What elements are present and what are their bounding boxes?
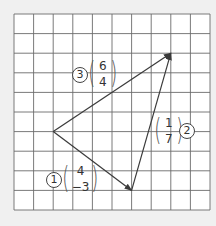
vector-2-x: 1 [165, 116, 173, 130]
vector-2-number-badge: 2 [179, 123, 195, 139]
left-paren-icon: ( [88, 58, 95, 90]
left-paren-icon: ( [62, 163, 69, 195]
left-paren-icon: ( [154, 115, 161, 147]
vector-3-y: 4 [99, 75, 107, 89]
vector-1-x: 4 [77, 164, 85, 178]
right-paren-icon: ) [110, 58, 117, 90]
vector-1-components: ( 4 −3 ) [60, 163, 101, 195]
vector-grid-diagram [0, 0, 216, 226]
vector-3-components: ( 6 4 ) [86, 58, 119, 90]
right-paren-icon: ) [92, 163, 99, 195]
vector-3-x: 6 [99, 59, 107, 73]
vector-2-y: 7 [165, 132, 173, 146]
vector-1-y: −3 [72, 180, 90, 194]
